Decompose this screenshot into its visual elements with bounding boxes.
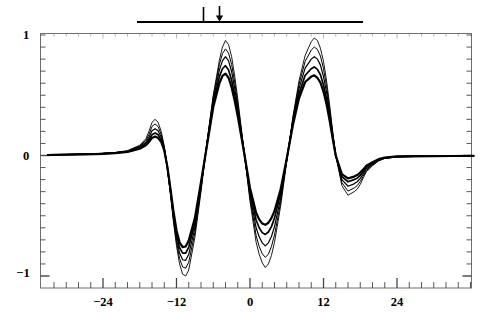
x-tick-label: −12 — [167, 295, 187, 309]
y-tick-label-mid: 0 — [23, 149, 29, 163]
y-tick-label-bottom: −1 — [16, 266, 29, 280]
y-tick-label-top: 1 — [23, 28, 29, 42]
x-tick-label: 0 — [247, 295, 253, 309]
x-tick-label: 12 — [317, 295, 330, 309]
x-tick-label: −24 — [93, 295, 113, 309]
chart-root: 1 0 −1 −24−1201224 — [0, 0, 480, 313]
wavelet-plot: 1 0 −1 −24−1201224 — [0, 0, 480, 313]
x-tick-label: 24 — [391, 295, 404, 309]
